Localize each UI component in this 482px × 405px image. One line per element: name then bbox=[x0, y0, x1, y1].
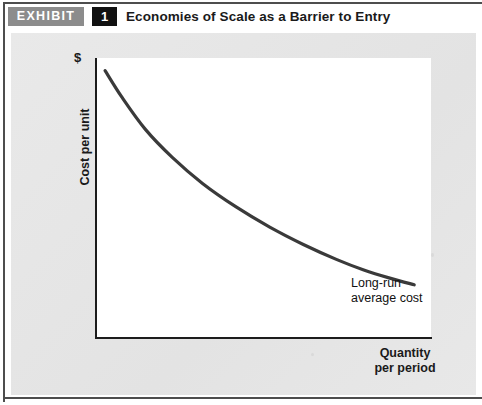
y-axis-line bbox=[95, 58, 97, 339]
curve-annotation-line1: Long-run bbox=[351, 276, 423, 291]
left-rule bbox=[3, 2, 5, 402]
x-axis-title-line2: per period bbox=[350, 361, 460, 376]
x-axis-title: Quantity per period bbox=[350, 346, 460, 376]
x-axis-title-line1: Quantity bbox=[350, 346, 460, 361]
exhibit-header: EXHIBIT 1 Economies of Scale as a Barrie… bbox=[8, 5, 478, 29]
bottom-rule bbox=[4, 397, 482, 399]
scan-speck bbox=[311, 353, 314, 356]
y-axis-unit-label: $ bbox=[74, 50, 81, 65]
x-axis-line bbox=[95, 337, 432, 339]
exhibit-figure: EXHIBIT 1 Economies of Scale as a Barrie… bbox=[0, 0, 482, 405]
curve-annotation: Long-run average cost bbox=[351, 276, 423, 306]
exhibit-title: Economies of Scale as a Barrier to Entry bbox=[126, 6, 390, 27]
curve-annotation-line2: average cost bbox=[351, 291, 423, 306]
exhibit-tag-badge: EXHIBIT bbox=[8, 7, 84, 26]
scan-speck bbox=[431, 253, 434, 257]
exhibit-number-badge: 1 bbox=[92, 7, 117, 26]
top-rule bbox=[4, 2, 482, 4]
y-axis-title: Cost per unit bbox=[78, 82, 92, 212]
